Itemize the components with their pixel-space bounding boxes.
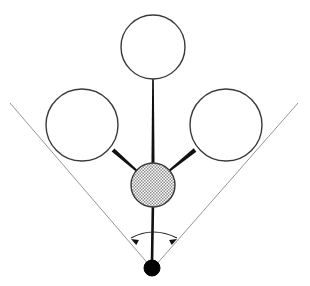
ligand-right xyxy=(190,89,262,161)
figure-canvas xyxy=(0,0,310,286)
ligand-top xyxy=(121,15,185,79)
central-atom xyxy=(131,163,175,207)
molecular-geometry-diagram xyxy=(0,0,310,286)
ligand-left xyxy=(46,89,118,161)
apex-atom xyxy=(144,260,160,276)
